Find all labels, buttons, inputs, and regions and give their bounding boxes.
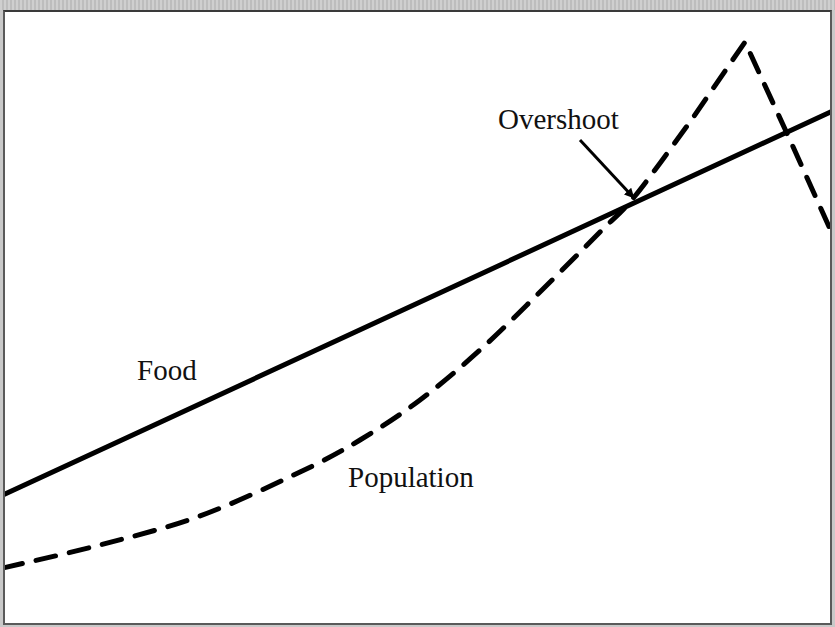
overshoot-label: Overshoot [498, 105, 619, 134]
food-label: Food [137, 356, 197, 385]
food-line [3, 110, 835, 495]
overshoot-arrow [580, 140, 633, 197]
population-label: Population [348, 463, 474, 492]
plot-area [0, 0, 835, 627]
